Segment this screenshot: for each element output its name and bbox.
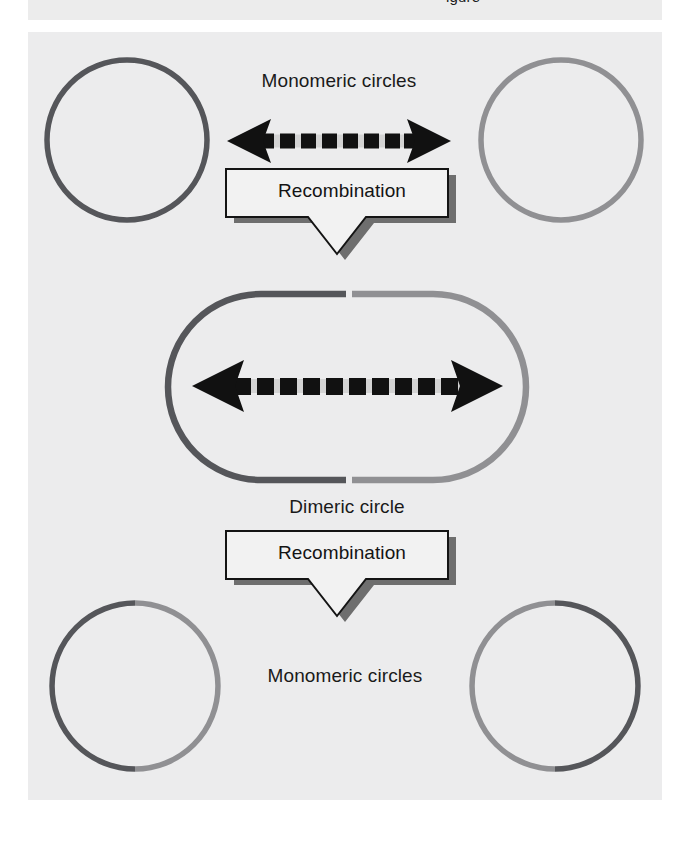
dashed-double-arrow-top (225, 117, 453, 165)
label-monomeric-circles-bottom: Monomeric circles (195, 665, 495, 687)
dashed-double-arrow-dimer (190, 358, 505, 414)
recombination-banner-1[interactable]: Recombination (224, 167, 460, 263)
figure-panel: Monomeric circles (28, 32, 662, 800)
monomeric-circle-top-left (41, 54, 213, 226)
recombination-banner-2[interactable]: Recombination (224, 529, 460, 625)
clipped-caption-strip: igure (28, 0, 662, 20)
label-monomeric-circles-top: Monomeric circles (189, 70, 489, 92)
clipped-caption-text: igure (446, 0, 480, 5)
label-dimeric-circle: Dimeric circle (197, 496, 497, 518)
monomeric-circle-top-right (475, 54, 647, 226)
